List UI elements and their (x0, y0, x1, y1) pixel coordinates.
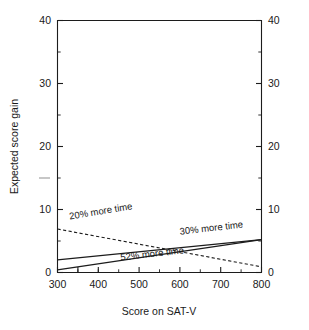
y-tick-label-right-20: 20 (268, 140, 280, 152)
y-tick-label-left-20: 20 (39, 140, 51, 152)
x-tick-label-400: 400 (90, 278, 108, 290)
x-tick-label-700: 700 (212, 278, 230, 290)
y-tick-label-left-10: 10 (39, 203, 51, 215)
x-axis-title: Score on SAT-V (122, 305, 197, 317)
y-tick-label-right-40: 40 (268, 14, 280, 26)
y-tick-label-left-30: 30 (39, 77, 51, 89)
line-chart-svg: 20% more time 30% more time 52% more tim… (0, 0, 309, 330)
x-tick-label-600: 600 (171, 278, 189, 290)
y-axis-title: Expected score gain (8, 99, 20, 194)
y-tick-label-left-40: 40 (39, 14, 51, 26)
y-tick-label-left-0: 0 (45, 266, 51, 278)
y-tick-label-right-30: 30 (268, 77, 280, 89)
x-tick-label-800: 800 (253, 278, 271, 290)
x-tick-label-500: 500 (130, 278, 148, 290)
y-tick-label-right-0: 0 (268, 266, 274, 278)
y-tick-label-right-10: 10 (268, 203, 280, 215)
chart-figure: 20% more time 30% more time 52% more tim… (0, 0, 309, 330)
x-tick-label-300: 300 (49, 278, 67, 290)
